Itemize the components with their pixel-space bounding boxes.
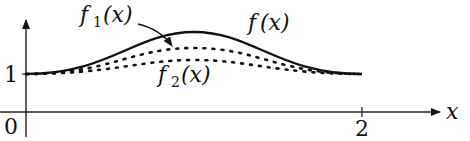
y-tick-label-1: 1 (4, 62, 18, 87)
svg-text:f: f (78, 2, 92, 27)
x-tick-label-2: 2 (355, 116, 369, 141)
svg-text:(x): (x) (103, 2, 133, 27)
x-axis-label: x (446, 99, 459, 124)
origin-label: 0 (4, 114, 18, 139)
label-f1: f 1 (x) (78, 2, 133, 30)
label-f2: f 2 (x) (156, 62, 211, 90)
svg-text:f: f (156, 62, 170, 87)
svg-text:2: 2 (171, 74, 180, 90)
svg-text:(x): (x) (260, 10, 290, 35)
function-diagram: 1 0 2 x f 1 (x) f (x) f 2 (x) (0, 0, 470, 141)
svg-text:1: 1 (93, 14, 102, 30)
label-f: f (x) (246, 10, 290, 35)
svg-text:(x): (x) (181, 62, 211, 87)
svg-text:f: f (246, 10, 260, 35)
